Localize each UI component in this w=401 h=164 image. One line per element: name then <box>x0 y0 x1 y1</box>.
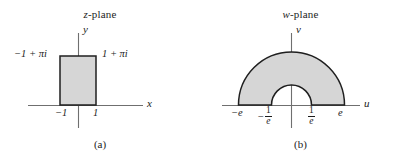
panel-z-plane: z-plane y x −1 + πi 1 + πi −1 1 (a) <box>0 0 200 164</box>
w-tick-label-one-over-e: 1e <box>308 107 315 128</box>
fraction-denominator: e <box>265 117 272 127</box>
panel-w-caption: (b) <box>200 138 401 150</box>
fraction-one-over-e-right: 1e <box>308 106 315 127</box>
y-axis-label: y <box>83 24 88 35</box>
w-tick-label-e: e <box>338 108 343 119</box>
minus-sign-glyph: − <box>258 112 264 123</box>
z-tick-label-one: 1 <box>93 108 98 119</box>
panel-w-plane: w-plane v u −e −1e 1e e (b) <box>200 0 401 164</box>
fraction-one-over-e-left: 1e <box>265 106 272 127</box>
z-region-fill <box>60 56 96 105</box>
u-axis-label: u <box>364 98 370 109</box>
z-tick-label-minus-one: −1 <box>55 108 67 119</box>
figure-container: z-plane y x −1 + πi 1 + πi −1 1 (a) w-pl… <box>0 0 401 164</box>
z-corner-label-top-left: −1 + πi <box>14 49 47 60</box>
panel-z-caption: (a) <box>0 138 200 150</box>
fraction-denominator: e <box>308 117 315 127</box>
x-axis-label: x <box>147 98 152 109</box>
w-tick-label-minus-e: −e <box>231 108 243 119</box>
z-corner-label-top-right: 1 + πi <box>102 49 128 60</box>
w-tick-label-minus-one-over-e: −1e <box>258 107 272 128</box>
v-axis-label: v <box>296 24 301 35</box>
